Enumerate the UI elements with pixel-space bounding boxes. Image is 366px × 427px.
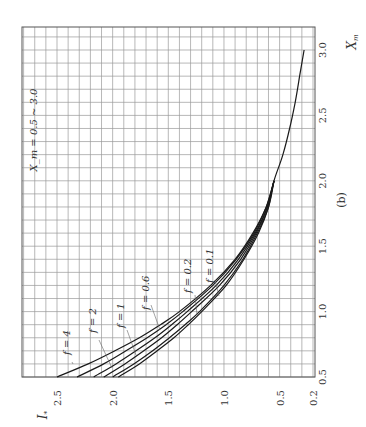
curve-label: f = 0.1 <box>204 249 215 284</box>
x-axis-title: Xm <box>345 34 360 51</box>
x-tick-label: 2.0 <box>317 173 328 189</box>
curve-label: f = 2 <box>87 308 98 334</box>
range-annotation: X_m = 0.5 ~ 3.0 <box>28 88 40 173</box>
grid <box>22 27 315 377</box>
curve-f4 <box>57 181 274 377</box>
curve-label: f = 0.6 <box>140 275 151 311</box>
curve-label: f = 4 <box>61 330 72 356</box>
curve-label: f = 0.2 <box>182 259 193 294</box>
y-tick-label: 0.5 <box>275 390 286 406</box>
x-tick-label: 1.0 <box>317 304 328 320</box>
y-tick-label: 2.0 <box>108 390 119 406</box>
panel-label: (b) <box>335 192 348 208</box>
rotated-chart: f = 4f = 2f = 1f = 0.6f = 0.2f = 0.10.20… <box>0 0 366 427</box>
x-tick-label: 1.5 <box>317 238 328 254</box>
y-tick-label: 0.2 <box>308 390 319 406</box>
x-tick-label: 0.5 <box>317 369 328 385</box>
curve-f0-2 <box>113 181 274 377</box>
chart-canvas: f = 4f = 2f = 1f = 0.6f = 0.2f = 0.10.20… <box>0 0 366 427</box>
x-tick-label: 3.0 <box>317 42 328 58</box>
y-tick-label: 1.0 <box>219 390 230 406</box>
y-axis-title: I* <box>36 410 51 420</box>
x-tick-label: 2.5 <box>317 107 328 123</box>
curve-label: f = 1 <box>115 303 126 329</box>
y-tick-label: 1.5 <box>163 390 174 406</box>
y-tick-label: 2.5 <box>52 390 63 406</box>
curve-f2 <box>77 181 274 377</box>
tick-labels: f = 4f = 2f = 1f = 0.6f = 0.2f = 0.10.20… <box>28 34 360 420</box>
